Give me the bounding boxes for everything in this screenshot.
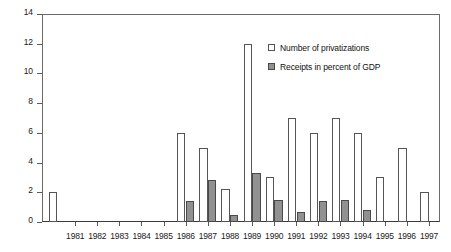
y-axis-tick: 10: [0, 73, 42, 74]
gray-square-icon: [268, 63, 275, 70]
x-axis-tick-1986: 1986: [175, 222, 197, 252]
x-axis-tick-1996: 1996: [396, 222, 418, 252]
y-tick-label: 0: [28, 216, 33, 225]
x-axis-tick-1987: 1987: [197, 222, 219, 252]
x-axis-tick-1991: 1991: [285, 222, 307, 252]
y-axis-tick: 2: [0, 192, 42, 193]
bar-1987-series-1: [199, 148, 207, 222]
bar-1986-series-2: [186, 201, 194, 222]
x-tick-mark: [164, 222, 165, 226]
bar-1992-series-2: [319, 201, 327, 222]
x-axis: 1981198219831984198519861987198819891990…: [42, 222, 440, 252]
x-tick-label: 1986: [175, 231, 197, 241]
x-tick-label: 1990: [263, 231, 285, 241]
x-tick-label: 1989: [241, 231, 263, 241]
x-tick-label: 1981: [64, 231, 86, 241]
bar-1989-series-2: [252, 173, 260, 222]
bar-1993-series-1: [332, 118, 340, 222]
bar-1986-series-1: [177, 133, 185, 222]
privatizations-bar-chart: 02468101214 1981198219831984198519861987…: [0, 0, 451, 252]
bar-1997-series-1: [420, 192, 428, 222]
x-tick-label: 1996: [396, 231, 418, 241]
y-axis-tick: 14: [0, 14, 42, 15]
x-tick-label: 1982: [86, 231, 108, 241]
bar-1996-series-1: [398, 148, 406, 222]
x-axis-tick-1990: 1990: [263, 222, 285, 252]
x-tick-mark: [208, 222, 209, 226]
x-axis-tick-1997: 1997: [418, 222, 440, 252]
x-tick-label: 1983: [108, 231, 130, 241]
bar-1992-series-1: [310, 133, 318, 222]
y-tick-label: 10: [24, 67, 33, 76]
x-tick-mark: [141, 222, 142, 226]
x-tick-mark: [318, 222, 319, 226]
bar-1990-series-1: [266, 177, 274, 222]
bar-1988-series-1: [221, 189, 229, 222]
x-axis-tick-1992: 1992: [307, 222, 329, 252]
y-tick-label: 6: [28, 127, 33, 136]
bar-1991-series-1: [288, 118, 296, 222]
y-axis-tick: 12: [0, 44, 42, 45]
x-tick-mark: [340, 222, 341, 226]
x-axis-tick-1984: 1984: [130, 222, 152, 252]
x-tick-mark: [75, 222, 76, 226]
bar-1990-series-2: [274, 200, 282, 222]
x-axis-tick-1988: 1988: [219, 222, 241, 252]
white-square-icon: [268, 44, 275, 51]
x-tick-mark: [429, 222, 430, 226]
y-tick-label: 8: [28, 97, 33, 106]
bar-leading-number-of-privatizations: [49, 192, 57, 222]
y-tick-label: 4: [28, 157, 33, 166]
x-tick-mark: [119, 222, 120, 226]
y-tick-label: 14: [24, 8, 33, 17]
y-axis: 02468101214: [0, 0, 42, 236]
x-tick-mark: [385, 222, 386, 226]
x-tick-label: 1988: [219, 231, 241, 241]
x-tick-mark: [296, 222, 297, 226]
x-axis-tick-1989: 1989: [241, 222, 263, 252]
bar-1994-series-1: [354, 133, 362, 222]
bar-1994-series-2: [363, 210, 371, 222]
x-axis-tick-1981: 1981: [64, 222, 86, 252]
x-axis-tick-1982: 1982: [86, 222, 108, 252]
bar-1987-series-2: [208, 180, 216, 222]
x-tick-label: 1994: [352, 231, 374, 241]
x-axis-tick-1995: 1995: [374, 222, 396, 252]
x-tick-mark: [230, 222, 231, 226]
y-axis-tick: 4: [0, 163, 42, 164]
x-tick-label: 1984: [130, 231, 152, 241]
bar-1989-series-1: [244, 44, 252, 222]
legend-item-receipts-in-percent-of-gdp: Receipts in percent of GDP: [268, 60, 428, 73]
x-tick-label: 1995: [374, 231, 396, 241]
x-axis-tick-1983: 1983: [108, 222, 130, 252]
x-tick-mark: [97, 222, 98, 226]
legend-label: Receipts in percent of GDP: [280, 62, 380, 72]
bar-1995-series-1: [376, 177, 384, 222]
x-tick-mark: [363, 222, 364, 226]
bar-1993-series-2: [341, 200, 349, 222]
y-axis-tick: 8: [0, 103, 42, 104]
legend-label: Number of privatizations: [280, 43, 369, 53]
legend-item-number-of-privatizations: Number of privatizations: [268, 41, 428, 54]
chart-legend: Number of privatizations Receipts in per…: [268, 41, 428, 79]
x-tick-label: 1992: [307, 231, 329, 241]
y-axis-tick: 0: [0, 222, 42, 223]
x-axis-tick-1993: 1993: [329, 222, 351, 252]
x-tick-label: 1997: [418, 231, 440, 241]
x-axis-tick-1985: 1985: [153, 222, 175, 252]
y-axis-tick: 6: [0, 133, 42, 134]
x-axis-tick-1994: 1994: [352, 222, 374, 252]
x-tick-mark: [407, 222, 408, 226]
y-tick-label: 12: [24, 38, 33, 47]
x-tick-label: 1985: [153, 231, 175, 241]
bar-1991-series-2: [297, 212, 305, 222]
y-tick-label: 2: [28, 186, 33, 195]
x-tick-label: 1993: [329, 231, 351, 241]
x-tick-label: 1991: [285, 231, 307, 241]
x-tick-mark: [274, 222, 275, 226]
x-tick-label: 1987: [197, 231, 219, 241]
bar-1988-series-2: [230, 215, 238, 222]
x-tick-mark: [186, 222, 187, 226]
x-tick-mark: [252, 222, 253, 226]
